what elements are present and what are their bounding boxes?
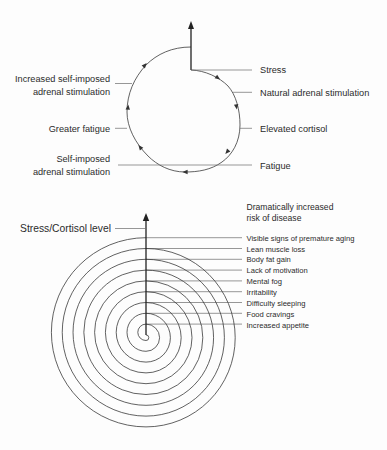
label-stress: Stress [260, 65, 286, 75]
level-label: Difficulty sleeping [247, 299, 306, 308]
note-line1: Dramatically increased [247, 202, 334, 212]
label-increased-self-imposed-line2: adrenal stimulation [33, 87, 110, 97]
cycle-diagram: Stress Natural adrenal stimulation Eleva… [15, 21, 369, 177]
level-label: Body fat gain [247, 255, 291, 264]
label-self-imposed-line1: Self-imposed [56, 154, 110, 164]
level-label: Food cravings [247, 310, 295, 319]
arrow-up-icon [143, 213, 149, 221]
spiral-diagram: Stress/Cortisol level Dramatically incre… [20, 202, 354, 427]
level-labels: Visible signs of premature aging Lean mu… [247, 234, 355, 330]
diagram-canvas: Stress Natural adrenal stimulation Eleva… [0, 0, 387, 450]
stress-spiral [51, 238, 235, 427]
axis-label-stress-cortisol: Stress/Cortisol level [20, 223, 111, 234]
label-increased-self-imposed-line1: Increased self-imposed [15, 74, 110, 84]
label-natural-adrenal-stimulation: Natural adrenal stimulation [260, 88, 369, 98]
level-label: Irritability [247, 288, 278, 297]
label-elevated-cortisol: Elevated cortisol [260, 124, 327, 134]
cycle-direction-arrows [126, 62, 239, 175]
arrowhead-icon [215, 75, 222, 82]
label-fatigue: Fatigue [260, 161, 291, 171]
level-label: Lack of motivation [247, 266, 308, 275]
arrowhead-icon [142, 62, 149, 69]
level-label: Visible signs of premature aging [247, 234, 355, 243]
arrowhead-icon [224, 149, 231, 156]
arrowhead-icon [182, 170, 187, 174]
label-self-imposed-line2: adrenal stimulation [33, 167, 110, 177]
arrowhead-icon [126, 104, 131, 110]
arrow-up-icon [188, 21, 194, 29]
level-leaders [146, 238, 242, 324]
level-label: Mental fog [247, 277, 282, 286]
note-line2: risk of disease [247, 213, 302, 223]
label-greater-fatigue: Greater fatigue [49, 124, 110, 134]
level-label: Lean muscle loss [247, 245, 306, 254]
diagram-page: Stress Natural adrenal stimulation Eleva… [0, 0, 387, 450]
level-label: Increased appetite [247, 321, 309, 330]
